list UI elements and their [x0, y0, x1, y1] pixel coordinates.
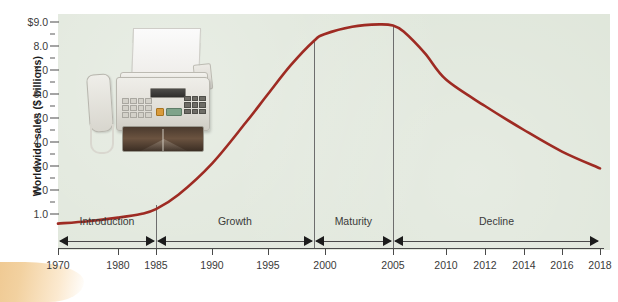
bracket-bar — [316, 241, 391, 242]
x-tick-label: 2018 — [588, 259, 611, 271]
x-tick-label: 2010 — [434, 259, 457, 271]
x-tick-label: 2000 — [313, 259, 336, 271]
bracket-arrow-right — [304, 236, 313, 246]
x-tick — [58, 249, 59, 255]
bracket-arrow-right — [146, 236, 155, 246]
stage-maturity-bracket — [316, 236, 391, 246]
x-tick — [212, 249, 213, 255]
stage-maturity-label: Maturity — [335, 215, 372, 227]
x-tick-label: 2016 — [550, 259, 573, 271]
x-tick-label: 1990 — [200, 259, 223, 271]
x-tick — [118, 249, 119, 255]
x-tick-label: 1985 — [144, 259, 167, 271]
x-tick — [485, 249, 486, 255]
stage-growth-bracket — [158, 236, 312, 246]
bracket-bar — [158, 241, 312, 242]
bracket-bar — [395, 241, 598, 242]
x-tick — [156, 249, 157, 255]
stage-growth-label: Growth — [218, 215, 252, 227]
x-tick — [524, 249, 525, 255]
bracket-arrow-right — [383, 236, 392, 246]
x-tick-label: 2012 — [473, 259, 496, 271]
bracket-arrow-left — [315, 236, 324, 246]
x-tick — [268, 249, 269, 255]
x-axis-line — [58, 248, 604, 249]
x-tick-label: 2005 — [381, 259, 404, 271]
bracket-arrow-left — [157, 236, 166, 246]
stage-introduction-bracket — [60, 236, 154, 246]
stage-decline-label: Decline — [479, 215, 514, 227]
x-tick-label: 1980 — [106, 259, 129, 271]
stage-introduction-label: Introduction — [80, 215, 135, 227]
x-tick — [446, 249, 447, 255]
bracket-arrow-left — [394, 236, 403, 246]
x-tick — [562, 249, 563, 255]
x-tick — [600, 249, 601, 255]
sales-curve-line — [58, 24, 600, 223]
stage-decline-bracket — [395, 236, 598, 246]
x-tick-label: 1995 — [256, 259, 279, 271]
bracket-arrow-left — [59, 236, 68, 246]
x-tick — [393, 249, 394, 255]
x-tick-label: 1970 — [46, 259, 69, 271]
bracket-arrow-right — [590, 236, 599, 246]
bracket-bar — [60, 241, 154, 242]
x-tick-label: 2014 — [512, 259, 535, 271]
x-tick — [325, 249, 326, 255]
